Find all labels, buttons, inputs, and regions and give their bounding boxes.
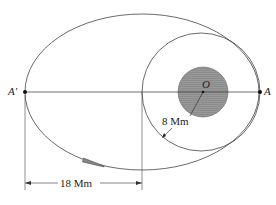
radius-label: 8 Mm [162, 115, 189, 127]
point-a [258, 90, 262, 94]
radius-arrowhead [162, 133, 166, 138]
orbit-diagram: A' A O 8 Mm 18 Mm [0, 0, 276, 205]
rocket-icon [82, 158, 104, 168]
orbit-svg [0, 0, 276, 205]
label-o: O [202, 78, 210, 90]
point-a-prime [23, 90, 27, 94]
dimension-arrow-right [136, 181, 142, 185]
label-a: A [264, 85, 271, 97]
label-a-prime: A' [8, 85, 17, 97]
distance-label: 18 Mm [60, 177, 92, 189]
dimension-arrow-left [25, 181, 31, 185]
